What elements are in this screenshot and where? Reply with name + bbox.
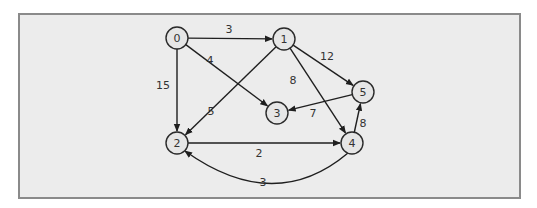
edge-weight-4-5: 8 bbox=[360, 117, 367, 130]
node-0: 0 bbox=[166, 27, 188, 49]
edge-4-to-2 bbox=[185, 151, 348, 184]
node-label: 5 bbox=[360, 86, 367, 99]
graph-canvas: 341558127823 012345 bbox=[0, 0, 537, 208]
edge-weight-0-2: 15 bbox=[156, 79, 170, 92]
edge-weight-2-4: 2 bbox=[256, 147, 263, 160]
edge-5-to-3 bbox=[289, 95, 353, 111]
node-2: 2 bbox=[166, 132, 188, 154]
nodes-layer: 012345 bbox=[166, 27, 374, 154]
node-3: 3 bbox=[266, 102, 288, 124]
edge-0-to-3 bbox=[186, 45, 268, 106]
node-5: 5 bbox=[352, 81, 374, 103]
edge-labels-layer: 341558127823 bbox=[156, 23, 367, 189]
edge-0-to-1 bbox=[188, 38, 272, 39]
edge-weight-1-2: 5 bbox=[208, 105, 215, 118]
edge-weight-4-2: 3 bbox=[260, 176, 267, 189]
node-label: 0 bbox=[174, 32, 181, 45]
edge-weight-1-4: 8 bbox=[290, 74, 297, 87]
node-label: 3 bbox=[274, 107, 281, 120]
node-label: 2 bbox=[174, 137, 181, 150]
node-4: 4 bbox=[341, 132, 363, 154]
node-label: 1 bbox=[281, 33, 288, 46]
edge-weight-1-5: 12 bbox=[320, 50, 334, 63]
edge-1-to-2 bbox=[186, 47, 277, 135]
node-1: 1 bbox=[273, 28, 295, 50]
edge-weight-0-3: 4 bbox=[207, 54, 214, 67]
edge-weight-0-1: 3 bbox=[226, 23, 233, 36]
edge-weight-5-3: 7 bbox=[310, 107, 317, 120]
node-label: 4 bbox=[349, 137, 356, 150]
